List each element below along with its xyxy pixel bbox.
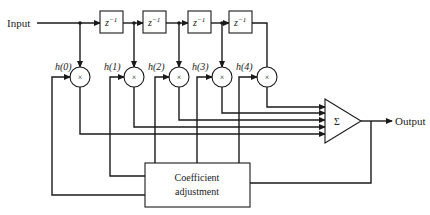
- input-label: Input: [7, 17, 30, 29]
- delay-z2: z−1: [143, 11, 166, 33]
- svg-text:×: ×: [78, 73, 83, 82]
- svg-text:Coefficient: Coefficient: [175, 172, 220, 183]
- coef-label-2: h(2): [148, 61, 165, 73]
- svg-text:×: ×: [220, 73, 225, 82]
- delay-z4: z−1: [229, 11, 252, 33]
- svg-text:×: ×: [132, 73, 137, 82]
- svg-text:×: ×: [265, 73, 270, 82]
- delay-z1: z−1: [100, 11, 123, 33]
- feedback-line: [250, 121, 371, 183]
- svg-text:Σ: Σ: [334, 116, 340, 127]
- output-label: Output: [395, 115, 426, 127]
- multiplier-2: h(2) ×: [148, 61, 189, 87]
- multiplier-4: × h(4): [236, 61, 277, 87]
- coef-label-3: h(3): [192, 61, 209, 73]
- multiplier-3: × h(3): [192, 61, 232, 87]
- delay-z3: z−1: [188, 11, 211, 33]
- product-lines: [80, 87, 325, 134]
- coef-label-0: h(0): [55, 61, 72, 73]
- svg-text:adjustment: adjustment: [175, 186, 219, 197]
- coef-label-1: h(1): [104, 61, 121, 73]
- svg-text:×: ×: [177, 73, 182, 82]
- multiplier-0: × h(0): [55, 61, 90, 87]
- coefficient-adjustment-block: Coefficient adjustment: [145, 163, 250, 207]
- fir-adaptive-filter-diagram: Input z−1 z−1 z−1 z−1 × h(: [0, 0, 430, 215]
- coef-label-4: h(4): [236, 61, 253, 73]
- summer: Σ: [325, 99, 361, 143]
